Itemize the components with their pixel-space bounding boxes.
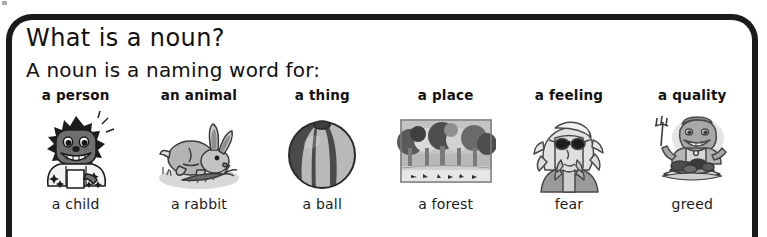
category-label-animal: an animal bbox=[161, 86, 237, 104]
caption-fear: fear bbox=[555, 196, 584, 212]
caption-greed: greed bbox=[672, 196, 713, 212]
forest-illustration bbox=[396, 108, 496, 194]
caption-forest: a forest bbox=[418, 196, 473, 212]
noun-column-animal: an animal bbox=[137, 86, 260, 212]
fear-illustration bbox=[519, 108, 619, 194]
caption-rabbit: a rabbit bbox=[171, 196, 227, 212]
child-illustration bbox=[26, 108, 126, 194]
noun-column-person: a person bbox=[14, 86, 137, 212]
noun-examples-row: a person bbox=[14, 86, 754, 234]
noun-column-feeling: a feeling bbox=[507, 86, 630, 212]
noun-column-place: a place bbox=[384, 86, 507, 212]
caption-ball: a ball bbox=[303, 196, 342, 212]
category-label-quality: a quality bbox=[658, 86, 727, 104]
page-subtitle: A noun is a naming word for: bbox=[26, 58, 320, 82]
caption-child: a child bbox=[52, 196, 100, 212]
category-label-place: a place bbox=[418, 86, 474, 104]
category-label-feeling: a feeling bbox=[535, 86, 603, 104]
greed-illustration bbox=[642, 108, 742, 194]
noun-column-thing: a thing bbox=[261, 86, 384, 212]
ball-illustration bbox=[272, 108, 372, 194]
noun-column-quality: a quality bbox=[631, 86, 754, 212]
category-label-thing: a thing bbox=[295, 86, 350, 104]
category-label-person: a person bbox=[42, 86, 110, 104]
page-title: What is a noun? bbox=[26, 24, 225, 52]
rabbit-illustration bbox=[149, 108, 249, 194]
worksheet-content: What is a noun? A noun is a naming word … bbox=[0, 0, 767, 237]
